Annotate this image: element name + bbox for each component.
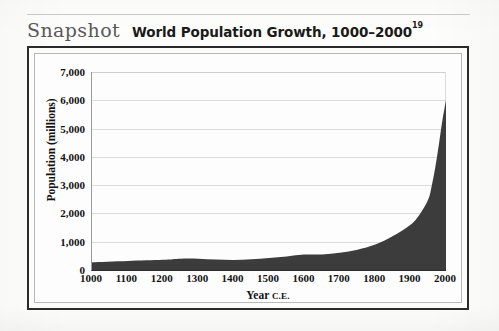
figure-page: Snapshot World Population Growth, 1000–2… (0, 0, 499, 331)
page-title: World Population Growth, 1000–200019 (132, 24, 423, 40)
y-axis-tick-labels: 01,0002,0003,0004,0005,0006,0007,000 (29, 72, 89, 270)
population-area-path (92, 100, 446, 270)
area-series (92, 72, 446, 270)
y-tick-label-1000: 1,000 (60, 236, 85, 248)
x-tick-label-1200: 1200 (151, 272, 173, 284)
y-tick-label-4000: 4,000 (60, 151, 85, 163)
y-tick-label-6000: 6,000 (60, 94, 85, 106)
y-tick-label-2000: 2,000 (60, 207, 85, 219)
x-tick-label-2000: 2000 (434, 272, 456, 284)
x-axis-label-text: Year (246, 289, 269, 301)
x-axis-label: Year C.E. (91, 289, 445, 301)
x-tick-label-1600: 1600 (292, 272, 314, 284)
x-tick-label-1900: 1900 (399, 272, 421, 284)
figure-frame: Population (millions) 01,0002,0003,0004,… (27, 46, 469, 310)
y-tick-label-7000: 7,000 (60, 66, 85, 78)
x-tick-label-1400: 1400 (222, 272, 244, 284)
snapshot-kicker: Snapshot (27, 19, 120, 41)
x-axis-tick-labels: 1000110012001300140015001600170018001900… (91, 272, 445, 288)
x-tick-label-1800: 1800 (363, 272, 385, 284)
x-tick-label-1500: 1500 (257, 272, 279, 284)
x-tick-label-1100: 1100 (116, 272, 137, 284)
x-axis-era-suffix: C.E. (272, 291, 290, 301)
figure-header: Snapshot World Population Growth, 1000–2… (27, 19, 472, 43)
x-tick-label-1700: 1700 (328, 272, 350, 284)
y-tick-label-5000: 5,000 (60, 123, 85, 135)
footnote-marker: 19 (412, 21, 423, 30)
header-divider (27, 14, 470, 15)
plot-area (91, 72, 446, 271)
x-tick-label-1300: 1300 (186, 272, 208, 284)
page-title-text: World Population Growth, 1000–2000 (132, 24, 412, 40)
y-tick-label-3000: 3,000 (60, 179, 85, 191)
x-tick-label-1000: 1000 (80, 272, 102, 284)
